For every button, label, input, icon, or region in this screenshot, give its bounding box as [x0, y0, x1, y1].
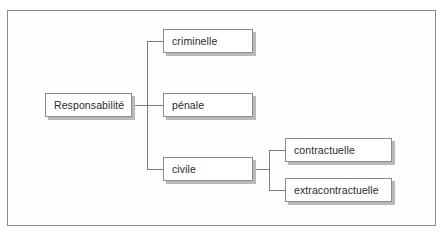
node-responsabilite: Responsabilité	[45, 93, 132, 117]
connector-level1-trunk	[147, 41, 148, 170]
node-label: extracontractuelle	[294, 184, 379, 196]
connector-root-out	[134, 105, 163, 106]
node-label: criminelle	[172, 35, 217, 47]
connector-level2-trunk	[269, 150, 270, 191]
node-label: civile	[172, 163, 196, 175]
node-criminelle: criminelle	[163, 29, 253, 53]
connector-to-civile	[147, 169, 163, 170]
connector-to-contractuelle	[269, 150, 285, 151]
connector-civile-out	[256, 169, 269, 170]
node-label: Responsabilité	[54, 99, 124, 111]
node-penale: pénale	[163, 93, 253, 117]
node-label: contractuelle	[294, 144, 355, 156]
connector-to-extracontractuelle	[269, 190, 285, 191]
node-label: pénale	[172, 99, 204, 111]
node-extracontractuelle: extracontractuelle	[285, 178, 392, 202]
node-contractuelle: contractuelle	[285, 138, 392, 162]
connector-to-criminelle	[147, 41, 163, 42]
node-civile: civile	[163, 157, 253, 181]
